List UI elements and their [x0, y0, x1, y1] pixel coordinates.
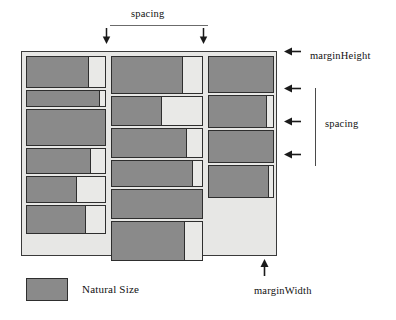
- margin-height-label: marginHeight: [310, 50, 371, 61]
- cell-natural-size: [27, 149, 91, 173]
- cell-natural-size: [209, 57, 273, 92]
- cell-natural-size: [27, 57, 89, 87]
- layout-cell: [26, 109, 106, 146]
- cell-natural-size: [27, 91, 100, 106]
- layout-cell: [111, 56, 203, 94]
- layout-cell: [111, 128, 203, 158]
- spacing-arrow-left-1: [284, 83, 301, 94]
- right-spacing-label: spacing: [325, 118, 358, 129]
- column-1: [26, 56, 106, 236]
- layout-cell: [111, 160, 203, 187]
- layout-cell: [208, 56, 274, 93]
- cell-natural-size: [209, 166, 269, 197]
- spacing-arrow-left-3: [284, 149, 301, 160]
- layout-diagram: spacing marginHeight spacing marginWid: [0, 0, 396, 320]
- layout-cell: [26, 205, 106, 234]
- layout-cell: [111, 189, 203, 219]
- spacing-arrow-left-2: [284, 116, 301, 127]
- legend-swatch-natural-size: [26, 278, 68, 301]
- cell-natural-size: [112, 190, 202, 218]
- layout-cell: [26, 90, 106, 107]
- column-2: [111, 56, 203, 263]
- margin-width-arrow: [259, 259, 270, 276]
- layout-cell: [26, 148, 106, 174]
- column-3: [208, 56, 274, 200]
- layout-cell: [111, 221, 203, 261]
- cell-natural-size: [112, 222, 185, 260]
- layout-cell: [26, 176, 106, 203]
- layout-cell: [208, 95, 274, 128]
- margin-width-label: marginWidth: [254, 285, 312, 296]
- top-spacing-label: spacing: [131, 8, 164, 19]
- cell-natural-size: [112, 57, 183, 93]
- cell-natural-size: [112, 129, 187, 157]
- spacing-arrow-down-right: [199, 28, 208, 44]
- margin-height-arrow: [284, 46, 301, 57]
- cell-natural-size: [112, 97, 162, 125]
- cell-natural-size: [209, 131, 273, 162]
- cell-natural-size: [27, 177, 77, 202]
- right-spacing-rule: [315, 88, 316, 166]
- spacing-arrow-down-left: [102, 28, 111, 44]
- layout-container: [21, 51, 277, 256]
- layout-cell: [26, 56, 106, 88]
- cell-natural-size: [112, 161, 193, 186]
- legend-label-natural-size: Natural Size: [82, 283, 139, 295]
- cell-natural-size: [27, 206, 86, 233]
- top-spacing-rule: [110, 25, 208, 26]
- layout-cell: [208, 165, 274, 198]
- cell-natural-size: [27, 110, 105, 145]
- layout-cell: [111, 96, 203, 126]
- cell-natural-size: [209, 96, 267, 127]
- layout-cell: [208, 130, 274, 163]
